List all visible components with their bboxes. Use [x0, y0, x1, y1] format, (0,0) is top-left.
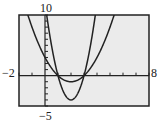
plot-background	[19, 15, 149, 106]
xmax-label: 8	[151, 67, 157, 79]
graph-plot	[0, 0, 159, 128]
ymax-label: 10	[40, 2, 52, 14]
ymin-label: −5	[39, 110, 52, 122]
xmin-label: −2	[2, 67, 15, 79]
